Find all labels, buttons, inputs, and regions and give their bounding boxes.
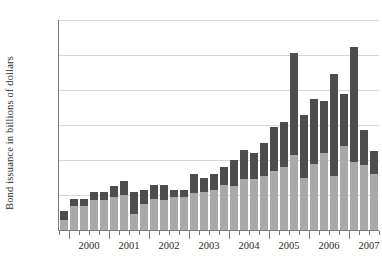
bar-segment-upper xyxy=(250,153,257,179)
bar-segment-lower xyxy=(240,179,247,230)
bar-segment-upper xyxy=(270,127,277,171)
bar-segment-lower xyxy=(120,195,127,230)
bar-segment-upper xyxy=(100,192,107,201)
bar xyxy=(370,151,377,230)
bar xyxy=(90,192,97,231)
bar xyxy=(60,211,67,230)
x-axis-tick-label: 2004 xyxy=(239,240,260,251)
bar xyxy=(360,130,367,230)
bar-segment-upper xyxy=(140,190,147,204)
bar-segment-upper xyxy=(240,150,247,180)
bar-segment-upper xyxy=(320,101,327,154)
x-axis-minor-tick xyxy=(249,231,250,235)
bar xyxy=(150,185,157,230)
bar xyxy=(310,99,317,230)
x-axis-minor-tick xyxy=(129,231,130,235)
bar xyxy=(270,127,277,230)
bar-segment-upper xyxy=(370,151,377,174)
bar-segment-lower xyxy=(200,192,207,231)
bar-segment-lower xyxy=(320,153,327,230)
x-axis-minor-tick xyxy=(199,231,200,235)
bar-segment-lower xyxy=(290,155,297,230)
x-axis-major-tick xyxy=(149,231,150,239)
bar xyxy=(300,115,307,231)
bar-segment-upper xyxy=(110,186,117,197)
x-axis-minor-tick xyxy=(239,231,240,235)
bar-segment-lower xyxy=(350,162,357,230)
bar-segment-upper xyxy=(130,192,137,215)
bar-segment-upper xyxy=(310,99,317,164)
x-axis-minor-tick xyxy=(139,231,140,235)
x-axis-minor-tick xyxy=(319,231,320,235)
bar xyxy=(80,199,87,230)
bar xyxy=(260,143,267,231)
bar-segment-upper xyxy=(150,185,157,199)
bar-segment-upper xyxy=(340,94,347,147)
bar xyxy=(280,122,287,231)
x-axis-tick-label: 2005 xyxy=(279,240,300,251)
bar-segment-lower xyxy=(100,200,107,230)
bar-segment-upper xyxy=(220,167,227,185)
bar xyxy=(250,153,257,230)
x-axis-tick-label: 2002 xyxy=(159,240,180,251)
x-axis-ticks xyxy=(59,231,379,239)
bar-segment-upper xyxy=(280,122,287,168)
bar xyxy=(240,150,247,231)
bar-segment-lower xyxy=(140,204,147,230)
bar-segment-upper xyxy=(350,47,357,162)
bar-segment-lower xyxy=(330,176,337,230)
x-axis-major-tick xyxy=(69,231,70,239)
x-axis-tick-label: 2003 xyxy=(199,240,220,251)
bar-series-group xyxy=(59,20,379,230)
x-axis-minor-tick xyxy=(259,231,260,235)
bar xyxy=(220,167,227,230)
x-axis-minor-tick xyxy=(99,231,100,235)
bar-segment-lower xyxy=(300,178,307,231)
bar-segment-lower xyxy=(260,176,267,230)
x-axis-major-tick xyxy=(189,231,190,239)
bar xyxy=(170,190,177,230)
plot-area: 04080120160200240 2000200120022003200420… xyxy=(59,20,379,230)
x-axis-minor-tick xyxy=(339,231,340,235)
bar-segment-upper xyxy=(120,181,127,195)
bar-segment-upper xyxy=(190,174,197,193)
x-axis-minor-tick xyxy=(279,231,280,235)
bar-segment-upper xyxy=(170,190,177,197)
bar-segment-lower xyxy=(180,197,187,230)
bar xyxy=(340,94,347,231)
bar xyxy=(100,192,107,231)
bar-segment-upper xyxy=(200,178,207,192)
bar-segment-lower xyxy=(360,165,367,230)
bar-segment-upper xyxy=(90,192,97,201)
x-axis-minor-tick xyxy=(59,231,60,235)
bar-segment-lower xyxy=(80,206,87,231)
bar-segment-lower xyxy=(370,174,377,230)
bar-segment-lower xyxy=(150,199,157,230)
x-axis-minor-tick xyxy=(379,231,380,235)
bar-segment-lower xyxy=(160,200,167,230)
bar xyxy=(210,174,217,230)
bar xyxy=(130,192,137,231)
bar xyxy=(160,185,167,231)
bar-chart: Bond issuance in billions of dollars 040… xyxy=(0,0,382,266)
bar-segment-lower xyxy=(90,200,97,230)
bar xyxy=(190,174,197,230)
bar-segment-lower xyxy=(130,214,137,230)
bar-segment-upper xyxy=(160,185,167,201)
bar-segment-upper xyxy=(70,199,77,206)
x-axis-minor-tick xyxy=(209,231,210,235)
x-axis-major-tick xyxy=(309,231,310,239)
bar-segment-lower xyxy=(250,179,257,230)
bar-segment-upper xyxy=(360,130,367,165)
bar-segment-upper xyxy=(230,160,237,186)
bar-segment-lower xyxy=(280,167,287,230)
x-axis-minor-tick xyxy=(119,231,120,235)
x-axis-minor-tick xyxy=(89,231,90,235)
bar-segment-lower xyxy=(220,185,227,231)
x-axis-minor-tick xyxy=(179,231,180,235)
bar-segment-lower xyxy=(70,206,77,231)
x-axis-tick-label: 2000 xyxy=(79,240,100,251)
x-axis-tick-labels: 20002001200220032004200520062007 xyxy=(59,240,379,256)
bar xyxy=(330,74,337,230)
x-axis-minor-tick xyxy=(289,231,290,235)
